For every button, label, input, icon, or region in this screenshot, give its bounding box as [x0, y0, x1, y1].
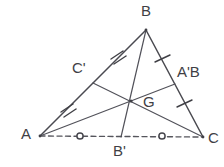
- label-vertex-a: A: [21, 126, 31, 141]
- label-centroid-g: G: [143, 94, 155, 109]
- median-b-to-bprime: [121, 30, 146, 137]
- median-c-to-cprime: [93, 83, 203, 137]
- median-a-to-aprime: [40, 84, 175, 136]
- label-vertex-b: B: [141, 3, 151, 18]
- centroid-dot-g: [129, 99, 132, 102]
- side-bc: [146, 30, 203, 137]
- label-midpoint-a-prime: A'B: [177, 64, 200, 79]
- label-midpoint-b-prime: B': [113, 143, 126, 158]
- label-midpoint-c-prime: C': [72, 60, 86, 75]
- circle-mark-ac-right: [159, 133, 165, 139]
- circle-mark-ac-left: [77, 133, 83, 139]
- label-vertex-c: C: [208, 130, 219, 145]
- vertex-dot-c: [202, 136, 205, 139]
- vertex-dot-a: [39, 135, 42, 138]
- geometry-diagram-canvas: B A C C' A'B B' G: [0, 0, 224, 167]
- tick-marks-ab-lower: [61, 104, 76, 117]
- triangle-medians-figure: [0, 0, 224, 167]
- vertex-dot-b: [145, 29, 148, 32]
